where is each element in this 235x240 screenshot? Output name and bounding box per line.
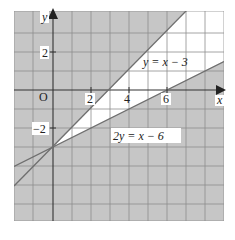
origin-label: O (39, 90, 48, 104)
y-tick-2: 2 (42, 46, 48, 60)
y-axis-label: y (41, 10, 48, 24)
x-tick-4: 4 (124, 92, 130, 106)
graph: y x O 2 −2 2 4 6 y = x − 3 2y = x − 6 (0, 0, 235, 240)
x-axis-label: x (216, 93, 223, 107)
x-tick-2: 2 (87, 92, 93, 106)
line1-label: y = x − 3 (142, 55, 188, 69)
x-tick-6: 6 (163, 92, 169, 106)
y-tick-minus-2: −2 (33, 122, 46, 136)
line2-label: 2y = x − 6 (113, 129, 164, 143)
